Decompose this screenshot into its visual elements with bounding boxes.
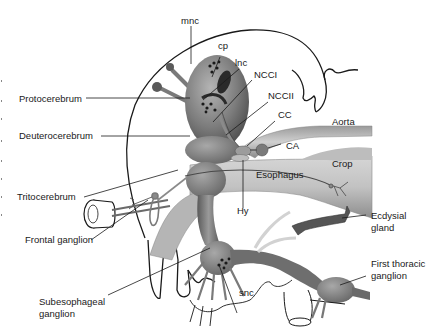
label-lnc: lnc xyxy=(235,57,247,68)
deuterocerebrum-shape xyxy=(185,136,239,164)
label-ncc2: NCCII xyxy=(268,90,294,101)
label-ecdysial-gland: gland xyxy=(371,222,394,233)
label-snc: snc xyxy=(239,287,254,298)
label-protocerebrum: Protocerebrum xyxy=(19,93,82,104)
ocelli xyxy=(152,63,190,102)
label-ncc1: NCCI xyxy=(254,69,277,80)
label-esophagus: Esophagus xyxy=(256,169,304,180)
label-subesophageal-ganglion: ganglion xyxy=(39,308,75,319)
corpora-allata xyxy=(256,144,268,156)
antenna-socket xyxy=(84,200,170,228)
diagram: mnc cp lnc NCCI NCCII CC Aorta CA Crop E… xyxy=(0,0,443,334)
label-crop: Crop xyxy=(332,158,353,169)
pale-tubes xyxy=(255,212,296,252)
label-subesophageal: Subesophageal xyxy=(39,296,105,307)
tritocerebrum-shape xyxy=(186,162,226,198)
label-mnc: mnc xyxy=(181,15,199,26)
label-aorta: Aorta xyxy=(332,116,355,127)
ventral-nerve-cord xyxy=(230,250,325,292)
label-deuterocerebrum: Deuterocerebrum xyxy=(19,130,93,141)
label-first-thoracic: First thoracic xyxy=(371,258,425,269)
label-cc: CC xyxy=(278,109,292,120)
label-frontal-ganglion: Frontal ganglion xyxy=(25,234,93,245)
label-ca: CA xyxy=(286,140,299,151)
label-tritocerebrum: Tritocerebrum xyxy=(17,191,76,202)
label-hy: Hy xyxy=(237,205,249,216)
connective xyxy=(197,195,220,245)
label-cp: cp xyxy=(218,40,228,51)
first-thoracic-ganglion-shape xyxy=(317,277,355,303)
label-first-thoracic-ganglion: ganglion xyxy=(371,270,407,281)
scan-edge-marks xyxy=(1,80,2,216)
ecdysial-gland-shape xyxy=(292,206,350,235)
hypocerebral-ganglion xyxy=(231,155,249,162)
label-ecdysial: Ecdysial xyxy=(371,210,406,221)
